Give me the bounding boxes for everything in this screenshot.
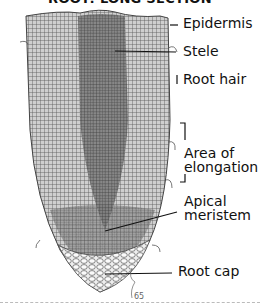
bottom-divider [0,302,260,303]
label-apical-meristem-line2: meristem [184,208,251,223]
label-stele: Stele [183,44,219,59]
label-area-of-elongation-line2: elongation [184,160,258,175]
label-epidermis: Epidermis [183,16,252,31]
label-root-hair: Root hair [183,72,246,87]
label-root-cap: Root cap [178,264,239,279]
